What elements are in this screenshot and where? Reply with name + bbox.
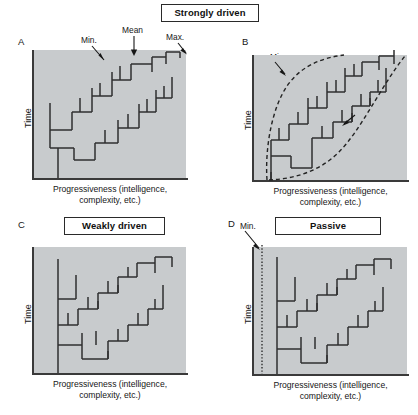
- panel-a-y-label: Time: [23, 108, 33, 128]
- panel-d-x-label-line1: Progressiveness (intelligence,: [252, 380, 409, 391]
- figure-root: Strongly driven A Min. Mean Max.: [0, 0, 418, 415]
- panel-b: B Min. Max.: [209, 0, 418, 207]
- panel-b-tree: [209, 0, 418, 207]
- panel-b-max-curve: [269, 56, 405, 180]
- panel-a-tree: [0, 0, 209, 207]
- panel-b-y-label: Time: [243, 110, 253, 130]
- panel-d-x-label-line2: complexity, etc.): [252, 391, 409, 402]
- panel-c-y-label: Time: [23, 304, 33, 324]
- panel-b-x-label-line1: Progressiveness (intelligence,: [252, 186, 409, 197]
- panel-d: Passive D Min.: [209, 207, 418, 415]
- panel-a: A Min. Mean Max.: [0, 0, 209, 207]
- panel-c-x-label-line1: Progressiveness (intelligence,: [32, 379, 188, 390]
- panel-a-x-label-line1: Progressiveness (intelligence,: [32, 184, 188, 195]
- panel-b-min-curve: [267, 55, 344, 180]
- panel-d-min-arrow: [245, 231, 259, 248]
- panel-c: Weakly driven C: [0, 207, 209, 415]
- panel-d-y-label: Time: [243, 304, 253, 324]
- panel-c-x-label-line2: complexity, etc.): [32, 390, 188, 401]
- panel-a-x-label-line2: complexity, etc.): [32, 195, 188, 206]
